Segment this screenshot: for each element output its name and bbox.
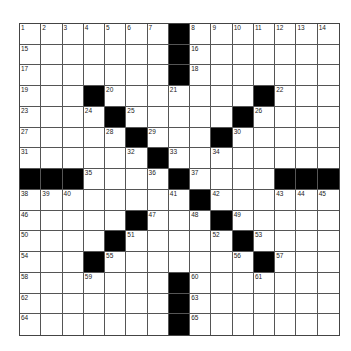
grid-cell[interactable]: 21 [169, 86, 190, 107]
grid-cell[interactable] [318, 314, 339, 335]
grid-cell[interactable] [254, 211, 275, 232]
grid-cell[interactable]: 26 [254, 107, 275, 128]
grid-cell[interactable]: 4 [84, 24, 105, 45]
grid-cell[interactable] [63, 252, 84, 273]
grid-cell[interactable]: 15 [20, 45, 41, 66]
grid-cell[interactable] [148, 45, 169, 66]
grid-cell[interactable] [63, 314, 84, 335]
grid-cell[interactable] [63, 128, 84, 149]
grid-cell[interactable] [318, 128, 339, 149]
grid-cell[interactable]: 59 [84, 273, 105, 294]
grid-cell[interactable] [41, 252, 62, 273]
grid-cell[interactable] [41, 65, 62, 86]
grid-cell[interactable] [126, 273, 147, 294]
grid-cell[interactable] [296, 294, 317, 315]
grid-cell[interactable] [275, 273, 296, 294]
grid-cell[interactable]: 41 [169, 190, 190, 211]
grid-cell[interactable]: 30 [233, 128, 254, 149]
grid-cell[interactable] [318, 148, 339, 169]
grid-cell[interactable] [211, 273, 232, 294]
grid-cell[interactable] [105, 148, 126, 169]
grid-cell[interactable] [254, 314, 275, 335]
grid-cell[interactable] [126, 86, 147, 107]
grid-cell[interactable]: 28 [105, 128, 126, 149]
grid-cell[interactable] [275, 65, 296, 86]
grid-cell[interactable] [318, 107, 339, 128]
grid-cell[interactable]: 16 [190, 45, 211, 66]
grid-cell[interactable] [148, 107, 169, 128]
grid-cell[interactable] [254, 148, 275, 169]
grid-cell[interactable] [126, 169, 147, 190]
grid-cell[interactable] [296, 252, 317, 273]
grid-cell[interactable] [105, 211, 126, 232]
grid-cell[interactable] [275, 294, 296, 315]
grid-cell[interactable]: 1 [20, 24, 41, 45]
grid-cell[interactable] [275, 231, 296, 252]
grid-cell[interactable] [296, 314, 317, 335]
grid-cell[interactable]: 60 [190, 273, 211, 294]
grid-cell[interactable] [63, 45, 84, 66]
grid-cell[interactable] [233, 148, 254, 169]
grid-cell[interactable] [105, 273, 126, 294]
grid-cell[interactable] [190, 231, 211, 252]
grid-cell[interactable] [233, 65, 254, 86]
grid-cell[interactable] [63, 148, 84, 169]
grid-cell[interactable]: 24 [84, 107, 105, 128]
grid-cell[interactable]: 62 [20, 294, 41, 315]
grid-cell[interactable] [318, 294, 339, 315]
grid-cell[interactable] [41, 314, 62, 335]
grid-cell[interactable] [63, 294, 84, 315]
grid-cell[interactable] [296, 211, 317, 232]
grid-cell[interactable] [105, 294, 126, 315]
grid-cell[interactable] [318, 231, 339, 252]
grid-cell[interactable]: 51 [126, 231, 147, 252]
grid-cell[interactable] [41, 86, 62, 107]
grid-cell[interactable] [105, 169, 126, 190]
grid-cell[interactable] [211, 107, 232, 128]
grid-cell[interactable] [318, 252, 339, 273]
grid-cell[interactable] [41, 148, 62, 169]
grid-cell[interactable]: 56 [233, 252, 254, 273]
grid-cell[interactable] [169, 231, 190, 252]
grid-cell[interactable] [211, 45, 232, 66]
grid-cell[interactable]: 52 [211, 231, 232, 252]
grid-cell[interactable] [105, 190, 126, 211]
grid-cell[interactable] [296, 107, 317, 128]
grid-cell[interactable] [169, 211, 190, 232]
grid-cell[interactable]: 14 [318, 24, 339, 45]
grid-cell[interactable] [275, 148, 296, 169]
grid-cell[interactable]: 7 [148, 24, 169, 45]
grid-cell[interactable] [233, 314, 254, 335]
grid-cell[interactable]: 25 [126, 107, 147, 128]
grid-cell[interactable]: 58 [20, 273, 41, 294]
grid-cell[interactable] [126, 294, 147, 315]
grid-cell[interactable] [296, 231, 317, 252]
grid-cell[interactable] [275, 211, 296, 232]
grid-cell[interactable] [84, 148, 105, 169]
grid-cell[interactable] [63, 273, 84, 294]
grid-cell[interactable] [169, 128, 190, 149]
grid-cell[interactable] [84, 65, 105, 86]
grid-cell[interactable] [211, 294, 232, 315]
grid-cell[interactable] [84, 231, 105, 252]
grid-cell[interactable]: 43 [275, 190, 296, 211]
grid-cell[interactable]: 48 [190, 211, 211, 232]
grid-cell[interactable] [84, 190, 105, 211]
grid-cell[interactable] [275, 45, 296, 66]
grid-cell[interactable] [105, 314, 126, 335]
grid-cell[interactable] [41, 128, 62, 149]
grid-cell[interactable] [105, 45, 126, 66]
grid-cell[interactable] [318, 211, 339, 232]
grid-cell[interactable] [254, 169, 275, 190]
grid-cell[interactable] [296, 45, 317, 66]
grid-cell[interactable]: 18 [190, 65, 211, 86]
grid-cell[interactable] [318, 273, 339, 294]
grid-cell[interactable]: 64 [20, 314, 41, 335]
grid-cell[interactable] [41, 45, 62, 66]
grid-cell[interactable] [148, 190, 169, 211]
grid-cell[interactable]: 35 [84, 169, 105, 190]
grid-cell[interactable]: 10 [233, 24, 254, 45]
grid-cell[interactable]: 44 [296, 190, 317, 211]
grid-cell[interactable]: 39 [41, 190, 62, 211]
grid-cell[interactable] [190, 128, 211, 149]
